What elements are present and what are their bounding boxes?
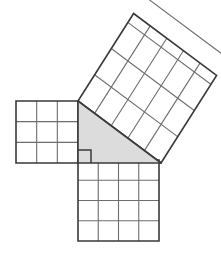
pythagoras-figure: [0, 0, 221, 259]
square-on-vertical-leg: [16, 101, 78, 163]
pythagoras-diagram-svg: [0, 0, 221, 259]
square-on-horizontal-leg: [78, 160, 159, 241]
square-on-vertical-leg-fill: [16, 101, 78, 163]
